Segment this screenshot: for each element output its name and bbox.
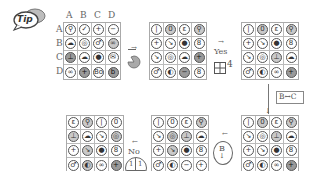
coin-icon: 8 <box>194 38 205 49</box>
grid-cell: ☁ <box>284 130 298 144</box>
grid-cell: ◎ <box>256 130 270 144</box>
grid-cell: + <box>152 144 166 158</box>
row-label-b: B <box>56 38 63 48</box>
grid-cell: ◐ <box>81 158 95 171</box>
grid-cell: 0 <box>256 23 270 37</box>
grid-cell: ε <box>180 116 194 130</box>
grid-cell: ↘ <box>166 144 180 158</box>
arrow-right-2: → <box>218 38 224 46</box>
grid-cell: ⊥ <box>67 130 81 144</box>
coin-icon: ↘ <box>96 131 107 142</box>
grid-cell: 0 <box>256 116 270 130</box>
coin-icon: ♂ <box>243 160 254 171</box>
grid-cell: ◎ <box>164 51 178 65</box>
coin-icon: ✓ <box>79 24 90 35</box>
grid-5: |0ε⚲↘◎⊥☁+↘●8♂◐−+ <box>151 115 209 171</box>
grid-cell: ⊥ <box>180 130 194 144</box>
coin-icon: + <box>194 52 205 63</box>
coin-icon: ● <box>96 145 107 156</box>
coin-icon: ↘ <box>257 145 268 156</box>
grid-cell: 0 <box>109 116 123 130</box>
grid-cell: b <box>106 65 120 79</box>
coin-icon: ⊥ <box>65 52 76 63</box>
grid-cell: 8 <box>109 144 123 158</box>
coin-icon: + <box>111 160 122 171</box>
arrow-left-5: ← <box>132 138 138 146</box>
row-label-a: A <box>56 24 63 34</box>
grid-cell: ◎ <box>166 130 180 144</box>
grid-cell: 8 <box>194 144 208 158</box>
grid-cell: ✉ <box>106 51 120 65</box>
grid-cell: ☁ <box>78 51 92 65</box>
coin-icon: ε <box>179 24 190 35</box>
grid-cell: 8 <box>284 144 298 158</box>
half-circle-right: 1 <box>138 160 142 168</box>
coin-icon: ⊥ <box>68 131 79 142</box>
coin-icon: 8 <box>111 145 122 156</box>
grid-cell: ∞ <box>95 158 109 171</box>
grid-cell: ● <box>92 51 106 65</box>
coin-icon: ∞ <box>108 38 119 49</box>
swap-label: B↔C <box>279 92 297 101</box>
grid-cell: ♂ <box>150 65 164 79</box>
coin-icon: + <box>151 38 162 49</box>
half-circle-left: 1 <box>129 160 133 168</box>
grid-cell: ● <box>270 37 284 51</box>
coin-icon: ⚲ <box>65 24 76 35</box>
coin-icon: 8 <box>196 145 207 156</box>
coin-icon: 8 <box>194 67 205 78</box>
grid-cell: ⚲ <box>194 116 208 130</box>
flip-circle-icon: B ↓ <box>213 141 233 165</box>
coin-icon: − <box>179 67 190 78</box>
grid-4: |0ε⚲↘◎⊥☁+↘●8♂◐∞+ <box>241 115 299 171</box>
coin-icon: | <box>96 117 107 128</box>
coin-icon: ◐ <box>167 160 178 171</box>
coin-icon: ♂ <box>153 160 164 171</box>
coin-icon: ◐ <box>165 67 176 78</box>
grid-cell: ε <box>270 116 284 130</box>
grid-cell: − <box>180 158 194 171</box>
grid-cell: + <box>192 51 206 65</box>
rotate-icon <box>127 54 141 73</box>
coin-icon: ♂ <box>93 38 104 49</box>
coin-icon: ε <box>271 117 282 128</box>
coin-icon: + <box>93 24 104 35</box>
quad-count: 4 <box>227 59 233 69</box>
coin-icon: ε <box>271 24 282 35</box>
coin-icon: | <box>243 117 254 128</box>
no-label: No <box>128 147 140 156</box>
coin-icon: ↘ <box>243 131 254 142</box>
col-label-c: C <box>94 10 101 20</box>
coin-icon: ↘ <box>257 38 268 49</box>
grid-cell: 0 <box>164 23 178 37</box>
arrow-head-3: ↓ <box>265 107 271 115</box>
coin-icon: ε <box>181 117 192 128</box>
coin-icon: ◎ <box>257 52 268 63</box>
coin-icon: ☁ <box>65 38 76 49</box>
coin-icon: | <box>243 24 254 35</box>
coin-icon: ⊥ <box>271 52 282 63</box>
flip-circle-arrow: ↓ <box>219 152 225 160</box>
coin-icon: ● <box>179 38 190 49</box>
grid-cell: − <box>106 23 120 37</box>
coin-icon: ✉ <box>108 52 119 63</box>
col-label-d: D <box>108 10 115 20</box>
grid-cell: 0 <box>166 116 180 130</box>
coin-icon: 0 <box>257 24 268 35</box>
grid-cell: ☁ <box>81 130 95 144</box>
coin-icon: ♂ <box>68 160 79 171</box>
grid-cell: ⚲ <box>284 116 298 130</box>
grid-cell: ◐ <box>164 65 178 79</box>
coin-icon: ∞ <box>65 67 76 78</box>
coin-icon: ● <box>181 145 192 156</box>
coin-icon: ⚲ <box>286 24 297 35</box>
coin-icon: ♂ <box>151 67 162 78</box>
grid-cell: + <box>67 144 81 158</box>
coin-icon: + <box>196 160 207 171</box>
grid-cell: | <box>242 116 256 130</box>
grid-cell: ↘ <box>95 130 109 144</box>
grid-cell: ⚲ <box>284 23 298 37</box>
grid-cell: | <box>150 23 164 37</box>
grid-cell: + <box>150 37 164 51</box>
coin-icon: ◐ <box>257 67 268 78</box>
